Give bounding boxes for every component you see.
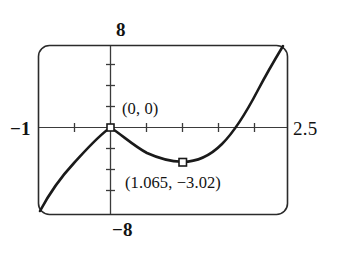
origin-point-label: (0, 0) — [122, 101, 158, 118]
window-label-ymin: −8 — [112, 220, 133, 239]
minimum-point-label: (1.065, −3.02) — [125, 175, 221, 192]
graphing-calculator-figure: 8 −8 −1 2.5 (0, 0) (1.065, −3.02) — [0, 0, 342, 255]
origin-point-marker — [107, 124, 114, 131]
window-label-xmin: −1 — [10, 119, 31, 138]
minimum-point-marker — [179, 159, 187, 167]
window-label-ymax: 8 — [116, 20, 126, 39]
calculator-screen-svg — [0, 0, 342, 255]
window-label-xmax: 2.5 — [293, 119, 317, 138]
